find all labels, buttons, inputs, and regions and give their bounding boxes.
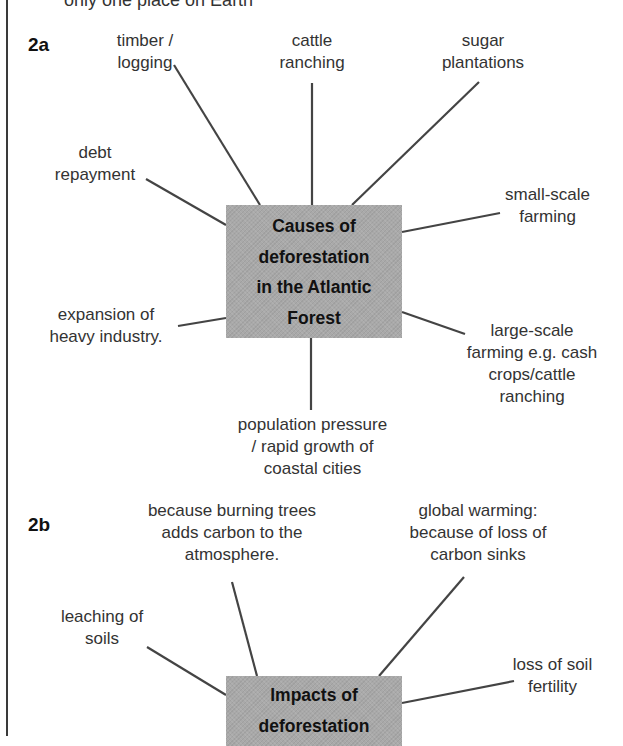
cause-sugar-plantations: sugar plantations [428, 30, 538, 74]
causes-center-box: Causes of deforestation in the Atlantic … [226, 205, 402, 338]
line-leaching [147, 647, 226, 695]
line-sugar [352, 82, 479, 205]
cause-small-scale-farming: small-scale farming [490, 184, 605, 228]
impact-carbon-atmosphere: because burning trees adds carbon to the… [122, 500, 342, 566]
line-debt [146, 179, 226, 225]
cause-timber-logging: timber / logging [95, 30, 195, 74]
cause-population-pressure: population pressure / rapid growth of co… [220, 414, 405, 480]
line-global-warming [379, 577, 464, 676]
cause-debt-repayment: debt repayment [40, 142, 150, 186]
cause-cattle-ranching: cattle ranching [262, 30, 362, 74]
cause-heavy-industry: expansion of heavy industry. [36, 304, 176, 348]
impact-leaching-soils: leaching of soils [42, 606, 162, 650]
impact-loss-soil-fertility: loss of soil fertility [495, 654, 610, 698]
impacts-center-box: Impacts of deforestation [226, 676, 402, 746]
section-label-2a: 2a [28, 34, 49, 56]
line-heavy-industry [178, 318, 226, 326]
line-timber [174, 65, 260, 205]
line-small-scale [402, 213, 500, 232]
cause-large-scale-farming: large-scale farming e.g. cash crops/catt… [452, 320, 612, 408]
impact-global-warming: global warming: because of loss of carbo… [388, 500, 568, 566]
section-label-2b: 2b [28, 514, 50, 536]
line-carbon [232, 582, 257, 676]
